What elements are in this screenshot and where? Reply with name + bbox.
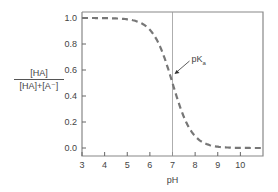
- titration-chart: 0.00.20.40.60.81.0345678910pHpKa: [0, 0, 278, 192]
- x-tick-label: 3: [79, 160, 84, 170]
- y-label-denominator: [HA]+[A⁻]: [14, 80, 64, 91]
- y-tick-label: 0.4: [64, 91, 77, 101]
- y-tick-label: 0.0: [64, 143, 77, 153]
- y-label-numerator: [HA]: [14, 68, 64, 80]
- pka-label: pKa: [192, 54, 207, 66]
- x-tick-label: 7: [170, 160, 175, 170]
- x-tick-label: 4: [102, 160, 107, 170]
- x-tick-label: 9: [215, 160, 220, 170]
- y-tick-label: 0.2: [64, 117, 77, 127]
- y-tick-label: 1.0: [64, 13, 77, 23]
- x-axis-label: pH: [167, 175, 179, 185]
- y-tick-label: 0.8: [64, 39, 77, 49]
- y-tick-label: 0.6: [64, 65, 77, 75]
- x-tick-label: 6: [147, 160, 152, 170]
- x-tick-label: 8: [193, 160, 198, 170]
- x-tick-label: 5: [125, 160, 130, 170]
- plot-area: 0.00.20.40.60.81.0345678910pHpKa: [64, 12, 263, 185]
- x-tick-label: 10: [235, 160, 245, 170]
- y-axis-label: [HA] [HA]+[A⁻]: [14, 68, 64, 91]
